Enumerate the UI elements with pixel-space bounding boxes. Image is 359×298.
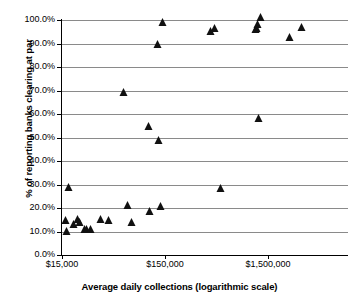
data-point (257, 13, 265, 21)
data-point (255, 114, 263, 122)
data-point (86, 225, 94, 233)
data-point (210, 24, 218, 32)
y-tick-label: 100.0% (9, 14, 55, 24)
x-tick-label: $150,000 (146, 259, 184, 269)
data-point (145, 122, 153, 130)
data-point (123, 201, 131, 209)
data-point (128, 218, 136, 226)
y-tick-label: 10.0% (9, 226, 55, 236)
y-tick-label: 90.0% (9, 38, 55, 48)
data-point (285, 33, 293, 41)
data-point (157, 202, 165, 210)
y-tick-label: 30.0% (9, 179, 55, 189)
data-point (105, 216, 113, 224)
x-axis-line (61, 255, 348, 256)
data-point (97, 215, 105, 223)
data-point (146, 207, 154, 215)
plot-area (62, 20, 348, 255)
x-tick-label: $1,500,000 (245, 259, 290, 269)
data-point (297, 23, 305, 31)
data-point (64, 183, 72, 191)
y-tick-label: 40.0% (9, 155, 55, 165)
y-tick-label: 20.0% (9, 202, 55, 212)
data-point (216, 184, 224, 192)
y-tick-label: 70.0% (9, 85, 55, 95)
scatter-chart: % of reporting banks clearing at par 0.0… (0, 0, 359, 298)
y-tick-label: 0.0% (9, 249, 55, 259)
y-tick-label: 50.0% (9, 132, 55, 142)
data-point (153, 40, 161, 48)
x-axis-title: Average daily collections (logarithmic s… (0, 281, 359, 292)
data-point (254, 20, 262, 28)
x-tick-label: $15,000 (46, 259, 79, 269)
y-tick-label: 80.0% (9, 61, 55, 71)
data-point (155, 136, 163, 144)
y-tick-label: 60.0% (9, 108, 55, 118)
data-point (120, 88, 128, 96)
data-point (158, 18, 166, 26)
